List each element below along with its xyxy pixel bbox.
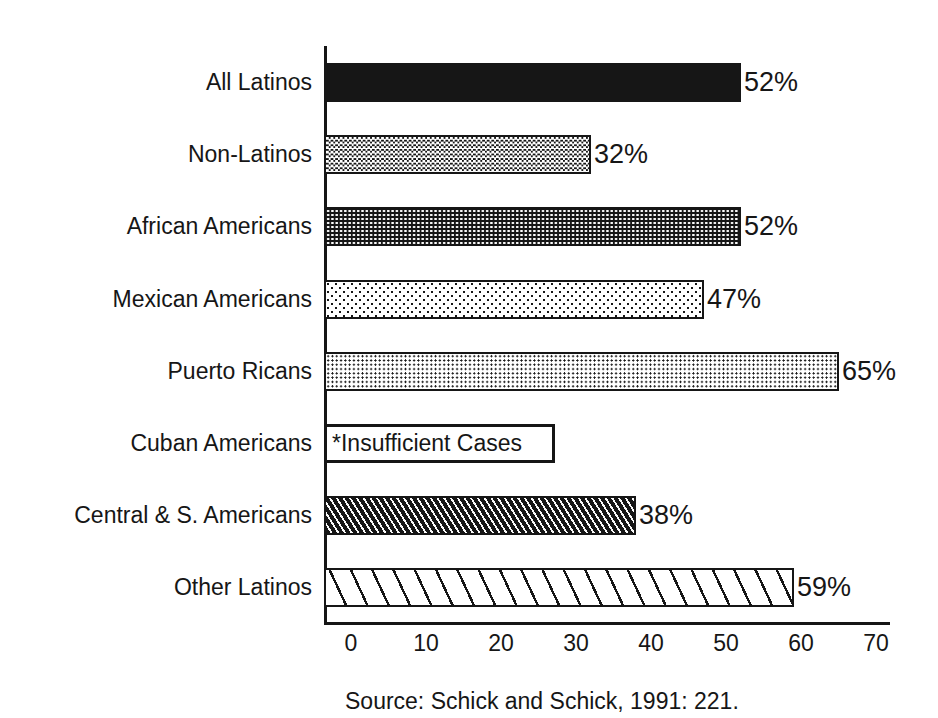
bar [324,207,741,246]
bar [324,496,636,535]
x-axis-tick-label: 70 [863,631,889,655]
x-axis-tick-label: 60 [788,631,814,655]
bar-value-label: 38% [639,496,693,535]
category-label: Cuban Americans [0,424,312,463]
bar [324,280,704,319]
category-label: Non-Latinos [0,135,312,174]
category-label: All Latinos [0,63,312,102]
bar-value-label: 59% [797,568,851,607]
chart-figure: All Latinos52%Non-Latinos32%African Amer… [0,0,938,718]
bar-value-label: 65% [842,352,896,391]
category-label: Puerto Ricans [0,352,312,391]
x-axis-tick-label: 0 [345,631,358,655]
x-axis-tick-label: 40 [638,631,664,655]
category-label: African Americans [0,207,312,246]
category-label: Central & S. Americans [0,496,312,535]
source-note: Source: Schick and Schick, 1991: 221. [345,688,739,714]
bar [324,568,794,607]
y-axis-spine [324,46,327,625]
category-label: Mexican Americans [0,280,312,319]
x-axis-tick-label: 20 [488,631,514,655]
insufficient-cases-note: *Insufficient Cases [327,427,552,460]
x-axis-line [324,622,890,625]
x-axis-tick-label: 30 [563,631,589,655]
bar [324,63,741,102]
x-axis-tick-label: 50 [713,631,739,655]
bar-value-label: 47% [707,280,761,319]
bar-value-label: 52% [744,63,798,102]
category-label: Other Latinos [0,568,312,607]
bar-value-label: 52% [744,207,798,246]
bar [324,135,591,174]
bar [324,352,839,391]
x-axis-tick-label: 10 [413,631,439,655]
insufficient-cases-box: *Insufficient Cases [324,424,555,463]
bar-value-label: 32% [594,135,648,174]
